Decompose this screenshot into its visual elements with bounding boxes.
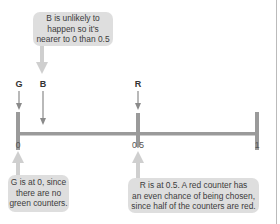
- callout-line: happen so it's: [33, 24, 113, 35]
- callout-line: G is at 0, since: [8, 177, 69, 188]
- callout-line: green counters.: [8, 198, 69, 209]
- callout-line: an even chance of being chosen,: [128, 191, 259, 202]
- marker-label-g: G: [15, 79, 22, 89]
- callout-line: B is unlikely to: [33, 13, 113, 24]
- callout-g-explanation: G is at 0, since there are no green coun…: [8, 175, 69, 212]
- marker-arrows: [16, 91, 141, 125]
- callout-arrows: [12, 45, 144, 178]
- callout-line: nearer to 0 than 0.5: [33, 34, 113, 45]
- tick-label-1: 1: [255, 140, 260, 150]
- callout-b-explanation: B is unlikely to happen so it's nearer t…: [33, 12, 113, 46]
- marker-label-r: R: [135, 79, 142, 89]
- tick-label-0: 0: [16, 140, 21, 150]
- callout-r-explanation: R is at 0.5. A red counter has an even c…: [128, 178, 259, 213]
- marker-label-b: B: [40, 79, 47, 89]
- callout-line: there are no: [8, 188, 69, 199]
- page-edge-divider: [276, 0, 277, 224]
- callout-line: since half of the counters are red.: [128, 201, 259, 212]
- callout-line: R is at 0.5. A red counter has: [128, 180, 259, 191]
- tick-label-0-5: 0.5: [132, 140, 144, 150]
